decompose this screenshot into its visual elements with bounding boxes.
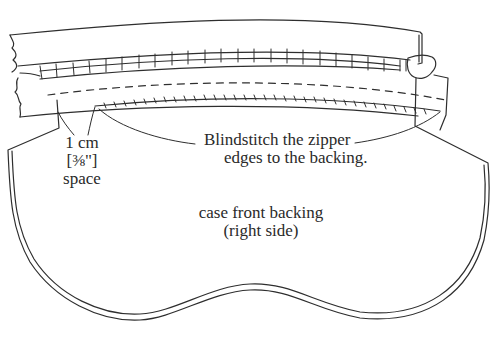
space-label: 1 cm [⅜"] space — [52, 134, 112, 188]
space-label-line-1: 1 cm — [52, 134, 112, 152]
instruction-line-2: edges to the backing. — [204, 149, 404, 167]
case-front-backing-outline — [8, 78, 489, 320]
backing-label: case front backing (right side) — [176, 204, 346, 240]
stitch-line-dashed — [48, 83, 446, 100]
instruction-label: Blindstitch the zipper edges to the back… — [198, 131, 404, 167]
instruction-line-1: Blindstitch the zipper — [204, 131, 404, 149]
zipper-teeth — [18, 49, 410, 79]
backing-label-line-1: case front backing — [176, 204, 346, 222]
diagram-canvas: 1 cm [⅜"] space Blindstitch the zipper e… — [0, 0, 492, 353]
space-label-line-2: [⅜"] — [52, 152, 112, 170]
space-label-line-3: space — [52, 170, 112, 188]
instruction-leader-line — [99, 109, 195, 144]
backing-label-line-2: (right side) — [176, 222, 346, 240]
blindstitch-line — [95, 95, 440, 114]
zipper-tape-top — [10, 20, 422, 72]
